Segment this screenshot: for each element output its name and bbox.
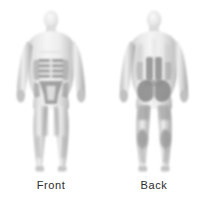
- figure-caption-front: Front: [0, 178, 102, 192]
- figure-caption-back: Back: [103, 178, 205, 192]
- back-leg-highlight-regions: [137, 105, 170, 163]
- figure-panel-front[interactable]: Front: [0, 0, 102, 205]
- front-highlight-regions: [33, 52, 68, 104]
- front-body-figure-icon[interactable]: [0, 8, 102, 178]
- back-body-figure-icon[interactable]: [103, 8, 205, 178]
- body-diagram-page: Front: [0, 0, 205, 205]
- figure-panel-back[interactable]: Back: [103, 0, 205, 205]
